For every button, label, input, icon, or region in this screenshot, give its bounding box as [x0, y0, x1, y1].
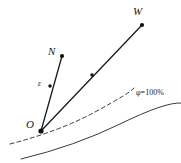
saturation-curve [21, 103, 181, 159]
label-w: W [133, 6, 142, 17]
point-n [60, 54, 64, 58]
label-saturation: φ=100% [136, 89, 164, 97]
point-w [140, 23, 144, 27]
diagram-svg [0, 0, 181, 163]
diagram-canvas: W N O ε φ=100% [0, 0, 181, 163]
label-epsilon: ε [38, 80, 41, 88]
dashed-curve [10, 88, 134, 144]
point-marker-on [48, 84, 51, 87]
label-n: N [48, 46, 55, 57]
point-origin [38, 128, 43, 133]
point-marker-ow [90, 73, 93, 76]
label-origin: O [26, 119, 34, 130]
